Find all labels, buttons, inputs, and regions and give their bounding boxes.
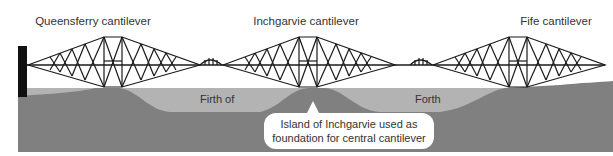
inchgarvie-cantilever-label: Inchgarvie cantilever	[253, 15, 358, 27]
firth-of-label: Firth of	[200, 93, 234, 105]
suspended-span-left	[200, 58, 222, 65]
suspended-span-right	[410, 58, 432, 65]
callout-line-2: foundation for central cantilever	[264, 131, 434, 145]
fife-cantilever-label: Fife cantilever	[520, 15, 592, 27]
forth-label: Forth	[415, 93, 441, 105]
inchgarvie-island-callout: Island of Inchgarvie used as foundation …	[264, 113, 434, 149]
forth-bridge-diagram: Queensferry cantilever Inchgarvie cantil…	[0, 0, 613, 156]
queensferry-cantilever-label: Queensferry cantilever	[35, 15, 151, 27]
south-abutment	[18, 46, 27, 97]
fife-cantilever	[433, 37, 605, 87]
inchgarvie-cantilever	[223, 37, 395, 87]
callout-line-1: Island of Inchgarvie used as	[264, 117, 434, 131]
queensferry-cantilever	[28, 37, 200, 87]
